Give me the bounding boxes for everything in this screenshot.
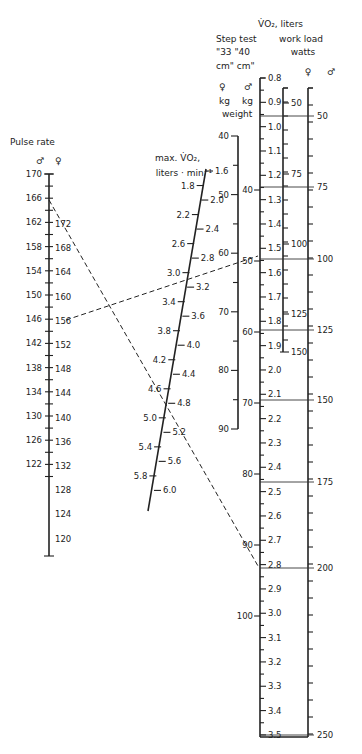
tick-label: 0.8: [268, 73, 282, 83]
female-symbol: ♀: [219, 82, 226, 92]
tick-label: 100: [237, 611, 253, 621]
tick-label: 4.4: [182, 369, 196, 379]
tick-label: 134: [26, 387, 42, 397]
tick-label: 5.2: [172, 427, 186, 437]
tick-label: 144: [55, 388, 71, 398]
tick-label: 100: [291, 239, 307, 249]
tick-label: 60: [218, 248, 229, 258]
male-symbol: ♂: [36, 156, 44, 166]
tick-label: 1.4: [268, 219, 282, 229]
female-symbol: ♀: [305, 67, 312, 77]
tick-label: 2.5: [268, 487, 282, 497]
tick-label: 148: [55, 364, 71, 374]
tick-label: 3.6: [191, 311, 205, 321]
tick-label: 142: [26, 338, 42, 348]
step-test-title: Step test: [216, 34, 257, 44]
tick-label: 4.0: [187, 340, 201, 350]
tick-label: 128: [55, 485, 71, 495]
step-test-heights: "33 "40: [216, 47, 250, 57]
tick-label: 3.2: [196, 282, 210, 292]
nomogram: Pulse rate♂♀max. V̇O₂,liters · min⁻¹V̇O₂…: [0, 0, 362, 754]
male-symbol: ♂: [244, 82, 252, 92]
max-vo2-title: max. V̇O₂,: [155, 152, 200, 163]
tick-label: 2.9: [268, 584, 282, 594]
tick-label: 3.3: [268, 681, 282, 691]
tick-label: 0.9: [268, 97, 282, 107]
tick-label: 158: [26, 242, 42, 252]
tick-label: 100: [317, 254, 333, 264]
tick-label: 2.2: [268, 414, 282, 424]
tick-label: 2.3: [268, 438, 282, 448]
tick-label: 164: [55, 267, 71, 277]
tick-label: 2.6: [172, 239, 186, 249]
tick-label: 1.1: [268, 146, 282, 156]
tick-label: 40: [242, 185, 253, 195]
step-weight-axis: 405060708090: [218, 131, 238, 434]
tick-label: 50: [291, 98, 302, 108]
tick-label: 132: [55, 461, 71, 471]
tick-label: 250: [317, 730, 333, 740]
tick-label: 120: [55, 534, 71, 544]
work-load-units: watts: [291, 47, 316, 57]
tick-label: 2.2: [176, 210, 190, 220]
tick-label: 1.8: [268, 316, 282, 326]
tick-label: 2.4: [268, 462, 282, 472]
female-symbol: ♀: [55, 156, 62, 166]
tick-label: 2.7: [268, 535, 282, 545]
tick-label: 1.5: [268, 243, 282, 253]
male-symbol: ♂: [327, 67, 335, 77]
tick-label: 1.9: [268, 341, 282, 351]
tick-label: 4.6: [148, 384, 162, 394]
tick-label: 5.4: [139, 442, 153, 452]
tick-label: 3.4: [268, 706, 282, 716]
tick-label: 50: [317, 111, 328, 121]
example-line-female: [66, 256, 258, 320]
max-vo2-units: liters · min⁻¹: [156, 168, 213, 178]
tick-label: 3.1: [268, 633, 282, 643]
tick-label: 152: [55, 340, 71, 350]
tick-label: 2.4: [206, 224, 220, 234]
tick-label: 2.6: [268, 511, 282, 521]
tick-label: 75: [291, 169, 302, 179]
tick-label: 162: [26, 217, 42, 227]
tick-label: 5.8: [134, 471, 148, 481]
tick-label: 1.6: [215, 166, 229, 176]
tick-label: 70: [242, 398, 253, 408]
tick-label: 126: [26, 435, 42, 445]
tick-label: 200: [317, 563, 333, 573]
tick-label: 1.7: [268, 292, 282, 302]
tick-label: 1.6: [268, 268, 282, 278]
tick-label: 125: [291, 309, 307, 319]
tick-label: 3.4: [162, 297, 176, 307]
tick-label: 150: [317, 395, 333, 405]
tick-label: 4.2: [153, 355, 167, 365]
tick-label: 140: [55, 413, 71, 423]
pulse-rate-title: Pulse rate: [10, 137, 55, 147]
tick-label: 138: [26, 363, 42, 373]
tick-label: 3.2: [268, 657, 282, 667]
vo2-title: V̇O₂, liters: [258, 18, 303, 29]
pulse-rate-axis: 1701661621581541501461421381341301261221…: [26, 169, 71, 556]
tick-label: 154: [26, 266, 42, 276]
tick-label: 130: [26, 411, 42, 421]
tick-label: 166: [26, 193, 42, 203]
tick-label: 4.8: [177, 398, 191, 408]
tick-label: 124: [55, 509, 71, 519]
tick-label: 175: [317, 477, 333, 487]
tick-label: 1.8: [181, 181, 195, 191]
tick-label: 1.3: [268, 195, 282, 205]
tick-label: 5.6: [168, 456, 182, 466]
tick-label: 150: [291, 347, 307, 357]
work-load-title: work load: [279, 34, 323, 44]
tick-label: 50: [218, 190, 229, 200]
tick-label: 2.8: [201, 253, 215, 263]
tick-label: 2.0: [268, 365, 282, 375]
tick-label: 160: [55, 292, 71, 302]
tick-label: 80: [242, 469, 253, 479]
tick-label: 75: [317, 182, 328, 192]
tick-label: 1.0: [268, 122, 282, 132]
tick-label: 90: [218, 424, 229, 434]
tick-label: 3.0: [167, 268, 181, 278]
tick-label: 3.0: [268, 608, 282, 618]
tick-label: 168: [55, 243, 71, 253]
